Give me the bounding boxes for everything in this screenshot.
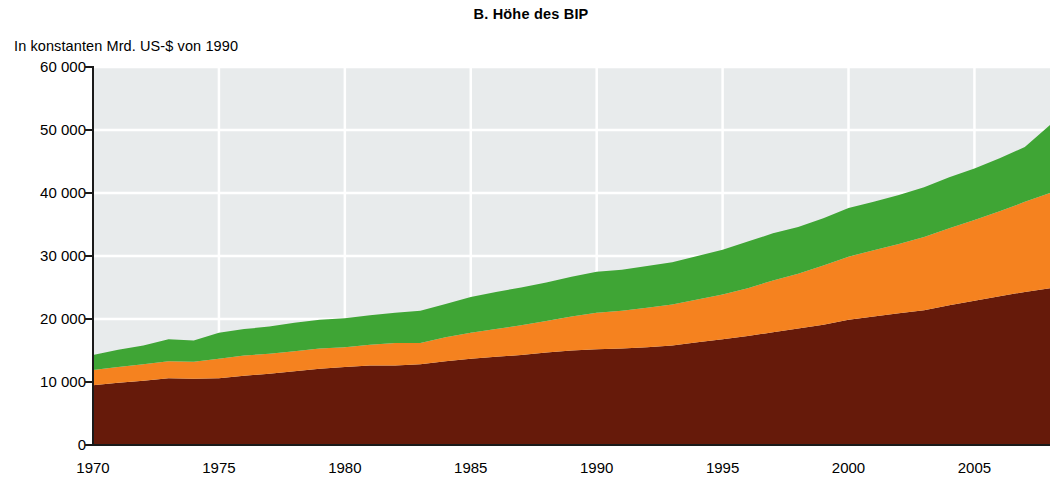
y-tick-mark (85, 129, 93, 131)
stacked-area-plot (93, 67, 1050, 445)
x-tick-label: 1995 (688, 460, 758, 475)
y-tick-label: 20 000 (0, 311, 86, 326)
x-tick-label: 1985 (436, 460, 506, 475)
y-tick-label: 30 000 (0, 248, 86, 263)
chart-figure: B. Höhe des BIP In konstanten Mrd. US-$ … (0, 0, 1062, 485)
plot-area (93, 67, 1050, 445)
x-axis-ticks: 19701975198019851990199520002005 (0, 452, 1062, 480)
chart-title: B. Höhe des BIP (0, 6, 1062, 22)
x-tick-label: 1990 (562, 460, 632, 475)
y-tick-label: 0 (0, 437, 86, 452)
x-axis-line (92, 444, 1050, 446)
y-tick-mark (85, 381, 93, 383)
y-tick-mark (85, 192, 93, 194)
x-tick-label: 2000 (814, 460, 884, 475)
x-tick-label: 1970 (58, 460, 128, 475)
y-tick-mark (85, 318, 93, 320)
y-tick-label: 10 000 (0, 374, 86, 389)
x-tick-label: 1980 (310, 460, 380, 475)
y-tick-label: 50 000 (0, 122, 86, 137)
y-axis-ticks: 010 00020 00030 00040 00050 00060 000 (0, 0, 86, 485)
y-tick-label: 60 000 (0, 59, 86, 74)
x-tick-label: 1975 (184, 460, 254, 475)
y-tick-mark (85, 444, 93, 446)
x-tick-label: 2005 (939, 460, 1009, 475)
y-tick-mark (85, 255, 93, 257)
y-tick-label: 40 000 (0, 185, 86, 200)
y-tick-mark (85, 66, 93, 68)
